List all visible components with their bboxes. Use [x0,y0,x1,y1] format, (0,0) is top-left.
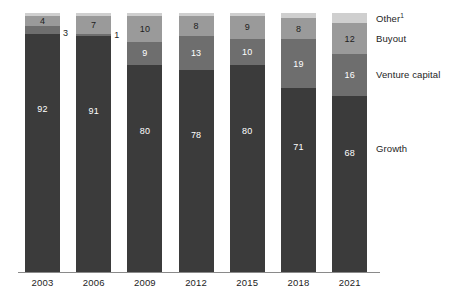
segment-value-label: 10 [230,47,265,56]
bar-segment-buyout: 9 [230,16,265,39]
bar-stack: 681612 [332,13,367,272]
x-axis-tick-2021: 2021 [326,277,373,288]
segment-value-label: 13 [179,49,214,58]
bar-segment-buyout: 8 [179,16,214,37]
segment-value-label: 4 [25,16,60,25]
bar-segment-growth: 80 [127,65,162,272]
bar-segment-venture-capital: 1 [76,34,111,37]
segment-value-label: 10 [127,24,162,33]
segment-value-label: 8 [281,24,316,33]
segment-value-label: 1 [114,31,128,40]
bar-segment-buyout: 7 [76,16,111,34]
bar-segment-other [127,13,162,16]
bar-stack: 71198 [281,13,316,272]
segment-value-label: 8 [179,21,214,30]
bar-segment-other [25,13,60,16]
segment-value-label: 12 [332,34,367,43]
bar-segment-growth: 80 [230,65,265,272]
bar-segment-other [76,13,111,16]
bar-segment-growth: 68 [332,96,367,272]
x-axis-tick-2018: 2018 [275,277,322,288]
bar-segment-buyout: 10 [127,16,162,42]
x-axis-tick-2009: 2009 [121,277,168,288]
segment-value-label: 3 [63,29,77,38]
legend-label-venture-capital: Venture capital [376,69,440,80]
bar-stack: 80109 [230,13,265,272]
bar-segment-growth: 92 [25,34,60,272]
bar-segment-other [281,13,316,18]
segment-value-label: 16 [332,71,367,80]
segment-value-label: 80 [230,127,265,136]
x-axis-tick-2003: 2003 [19,277,66,288]
stacked-bar-chart: 9234911780910781388010971198681612 20032… [0,0,459,303]
segment-value-label: 9 [127,49,162,58]
legend-label-other: Other1 [376,12,404,24]
bar-segment-growth: 71 [281,88,316,272]
bar-segment-venture-capital: 9 [127,42,162,65]
segment-value-label: 71 [281,143,316,152]
segment-value-label: 19 [281,59,316,68]
x-axis-tick-2012: 2012 [173,277,220,288]
segment-value-label: 91 [76,107,111,116]
segment-value-label: 7 [76,20,111,29]
bar-segment-growth: 78 [179,70,214,272]
bar-stack: 9234 [25,13,60,272]
segment-value-label: 80 [127,127,162,136]
segment-value-label: 78 [179,131,214,140]
bar-segment-buyout: 4 [25,16,60,26]
bar-stack: 80910 [127,13,162,272]
bar-segment-buyout: 8 [281,18,316,39]
bar-stack: 9117 [76,13,111,272]
legend-label-growth: Growth [376,143,407,154]
bar-segment-venture-capital: 16 [332,54,367,95]
bar-segment-other [230,13,265,16]
x-axis-tick-2006: 2006 [70,277,117,288]
segment-value-label: 68 [332,149,367,158]
bar-segment-other [179,13,214,16]
legend-footnote-marker: 1 [400,12,404,19]
x-axis-line [18,272,380,273]
x-axis-tick-2015: 2015 [224,277,271,288]
legend-label-buyout: Buyout [376,33,406,44]
bar-segment-venture-capital: 3 [25,26,60,34]
bar-segment-venture-capital: 10 [230,39,265,65]
segment-value-label: 9 [230,23,265,32]
bar-stack: 78138 [179,13,214,272]
bar-segment-buyout: 12 [332,23,367,54]
bar-segment-venture-capital: 13 [179,36,214,70]
bar-segment-venture-capital: 19 [281,39,316,88]
segment-value-label: 92 [25,105,60,114]
bar-segment-other [332,13,367,23]
bar-segment-growth: 91 [76,36,111,272]
